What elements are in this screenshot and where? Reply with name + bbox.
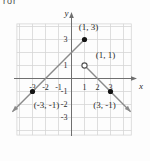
graph-figure: ror xy-3-2-112331-1-2-3(1, 3)(-3, -1)(1,… (0, 0, 150, 161)
closed-endpoint (108, 89, 113, 94)
closed-endpoint (30, 89, 35, 94)
point-label: (3, -1) (93, 100, 116, 110)
x-tick-label: 1 (83, 83, 87, 92)
point-label: (-3, -1) (34, 100, 60, 110)
open-endpoint (82, 63, 87, 68)
point-label: (1, 3) (79, 22, 99, 32)
y-axis-label: y (64, 8, 69, 18)
arrowhead-icon (131, 76, 137, 81)
y-tick-label: -3 (61, 113, 68, 122)
grid-border (17, 24, 131, 135)
y-tick-label: 1 (64, 61, 68, 70)
x-tick-label: -2 (42, 83, 49, 92)
x-tick-label: 2 (96, 83, 100, 92)
closed-endpoint (82, 37, 87, 42)
cropped-corner-text: ror (3, 0, 17, 6)
point-label: (1, 1) (96, 50, 116, 60)
arrowhead-icon (69, 12, 74, 18)
y-tick-label: 3 (64, 35, 68, 44)
y-tick-label: -1 (61, 87, 68, 96)
x-axis-label: x (138, 81, 143, 91)
graph-svg: xy-3-2-112331-1-2-3(1, 3)(-3, -1)(1, 1)(… (0, 0, 150, 161)
y-tick-label: -2 (61, 100, 68, 109)
